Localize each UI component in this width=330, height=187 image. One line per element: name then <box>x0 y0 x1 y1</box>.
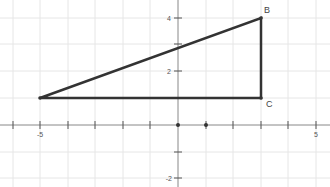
origin-point[interactable] <box>176 123 180 127</box>
vertex-b[interactable] <box>259 16 263 20</box>
point-1-0[interactable] <box>204 123 208 127</box>
y-tick-label: 4 <box>167 15 171 22</box>
y-tick-label: 2 <box>167 68 171 75</box>
vertex-label-b: B <box>264 5 270 15</box>
vertex-a[interactable] <box>38 96 42 100</box>
x-tick-label: 5 <box>314 131 318 138</box>
vertex-c[interactable] <box>259 96 263 100</box>
vertex-label-c: C <box>266 99 273 109</box>
coordinate-plane: -5 5 4 2 -2 B C <box>0 0 330 187</box>
y-tick-label: -2 <box>166 175 172 182</box>
x-tick-label: -5 <box>37 131 43 138</box>
